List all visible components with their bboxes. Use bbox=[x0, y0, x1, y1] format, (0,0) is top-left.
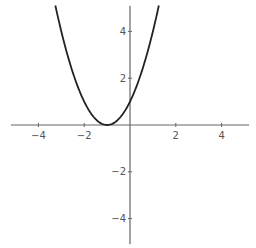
parabola-curve bbox=[55, 5, 159, 125]
x-tick-label: −2 bbox=[77, 130, 92, 141]
x-tick-label: 4 bbox=[218, 130, 224, 141]
y-tick-label: 2 bbox=[120, 73, 126, 84]
curves bbox=[55, 5, 159, 125]
x-tick-label: 2 bbox=[173, 130, 179, 141]
function-plot: −4−224−4−224 bbox=[0, 0, 256, 248]
y-tick-label: 4 bbox=[120, 26, 126, 37]
y-tick-label: −2 bbox=[111, 166, 126, 177]
axes bbox=[11, 6, 249, 245]
y-tick-label: −4 bbox=[111, 213, 126, 224]
x-tick-label: −4 bbox=[31, 130, 46, 141]
